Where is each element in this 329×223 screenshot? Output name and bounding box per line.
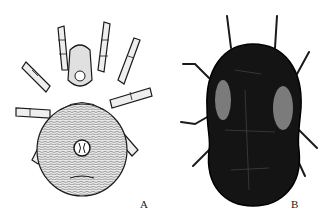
panel-b-dorsal-mite: B (165, 0, 329, 223)
panel-label-a: A (140, 198, 148, 210)
mite-dorsal-illustration (165, 0, 329, 223)
mite-ventral-illustration (0, 0, 165, 223)
panel-a-ventral-mite: A (0, 0, 165, 223)
panel-label-b: B (291, 198, 298, 210)
